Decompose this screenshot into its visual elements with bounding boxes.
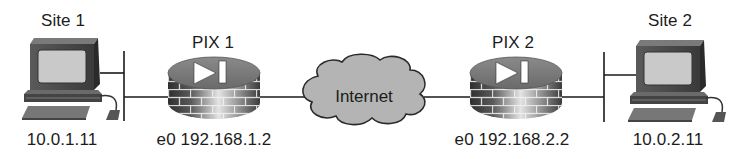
site2-workstation-icon[interactable]	[628, 40, 726, 122]
pix2-firewall-icon[interactable]	[470, 57, 562, 119]
internet-label: Internet	[335, 88, 393, 105]
pix1-interface-address: e0 192.168.1.2	[157, 131, 272, 148]
site2-ip-address: 10.0.2.11	[633, 131, 704, 148]
site2-title: Site 2	[648, 12, 692, 29]
site1-workstation-icon[interactable]	[22, 38, 120, 120]
pix2-title: PIX 2	[492, 34, 534, 51]
site1-title: Site 1	[41, 12, 85, 29]
network-diagram	[0, 0, 740, 159]
site1-ip-address: 10.0.1.11	[27, 131, 98, 148]
pix1-firewall-icon[interactable]	[168, 57, 260, 119]
pix2-interface-address: e0 192.168.2.2	[455, 131, 570, 148]
pix1-title: PIX 1	[192, 34, 234, 51]
